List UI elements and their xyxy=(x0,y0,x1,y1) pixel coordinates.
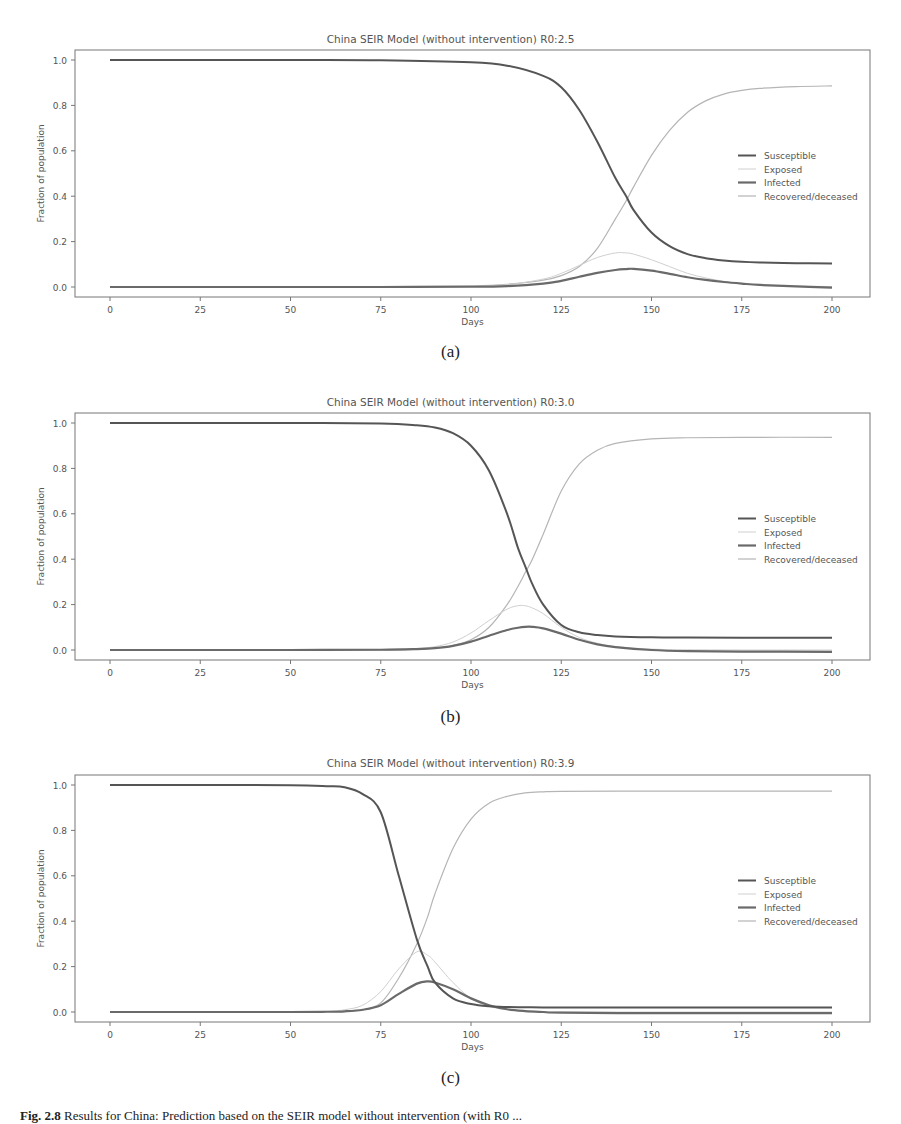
chart-panel-a: China SEIR Model (without intervention) … xyxy=(0,0,901,370)
x-tick-label: 175 xyxy=(733,1030,750,1040)
plot-area: 0.00.20.40.60.81.00255075100125150175200… xyxy=(0,0,901,330)
legend-entry: Infected xyxy=(764,541,801,551)
y-tick-label: 0.8 xyxy=(53,464,68,474)
x-tick-label: 0 xyxy=(107,668,113,678)
legend-entry: Recovered/deceased xyxy=(764,192,858,202)
figure-caption: Fig. 2.8 Results for China: Prediction b… xyxy=(20,1108,522,1124)
plot-area: 0.00.20.40.60.81.00255075100125150175200… xyxy=(0,725,901,1055)
series-line-recovered-deceased xyxy=(110,86,832,287)
y-tick-label: 0.2 xyxy=(53,962,67,972)
y-axis-label: Fraction of population xyxy=(36,849,46,947)
axes-frame xyxy=(75,50,870,297)
x-tick-label: 0 xyxy=(107,1030,113,1040)
axes-frame xyxy=(75,413,870,660)
x-tick-label: 100 xyxy=(462,1030,479,1040)
series-line-recovered-deceased xyxy=(110,791,832,1012)
panel-label: (b) xyxy=(0,707,901,727)
x-tick-label: 25 xyxy=(195,305,206,315)
panel-label: (a) xyxy=(0,342,901,362)
legend-entry: Susceptible xyxy=(764,876,817,886)
legend-entry: Susceptible xyxy=(764,514,817,524)
x-tick-label: 150 xyxy=(643,305,660,315)
y-tick-label: 0.2 xyxy=(53,600,67,610)
plot-area: 0.00.20.40.60.81.00255075100125150175200… xyxy=(0,363,901,693)
legend-entry: Infected xyxy=(764,903,801,913)
x-tick-label: 25 xyxy=(195,1030,206,1040)
legend-entry: Exposed xyxy=(764,528,802,538)
y-tick-label: 0.6 xyxy=(53,509,68,519)
x-tick-label: 150 xyxy=(643,668,660,678)
y-tick-label: 0.4 xyxy=(53,917,68,927)
y-tick-label: 1.0 xyxy=(53,781,68,791)
x-tick-label: 150 xyxy=(643,1030,660,1040)
x-tick-label: 25 xyxy=(195,668,206,678)
y-tick-label: 0.6 xyxy=(53,146,68,156)
y-tick-label: 0.4 xyxy=(53,192,68,202)
x-tick-label: 50 xyxy=(285,668,297,678)
y-tick-label: 0.6 xyxy=(53,871,68,881)
series-line-exposed xyxy=(110,605,832,650)
legend: SusceptibleExposedInfectedRecovered/dece… xyxy=(738,151,858,202)
x-tick-label: 75 xyxy=(375,668,386,678)
series-line-susceptible xyxy=(110,423,832,638)
y-tick-label: 0.0 xyxy=(53,283,68,293)
x-tick-label: 200 xyxy=(823,668,840,678)
y-axis-label: Fraction of population xyxy=(36,124,46,222)
x-tick-label: 200 xyxy=(823,305,840,315)
legend-entry: Exposed xyxy=(764,165,802,175)
series-line-recovered-deceased xyxy=(110,437,832,650)
x-tick-label: 125 xyxy=(553,668,570,678)
x-tick-label: 75 xyxy=(375,1030,386,1040)
legend-entry: Infected xyxy=(764,178,801,188)
x-tick-label: 100 xyxy=(462,668,479,678)
y-tick-label: 0.0 xyxy=(53,646,68,656)
x-tick-label: 175 xyxy=(733,305,750,315)
chart-panel-c: China SEIR Model (without intervention) … xyxy=(0,725,901,1095)
y-tick-label: 0.4 xyxy=(53,555,68,565)
y-tick-label: 0.8 xyxy=(53,101,68,111)
x-tick-label: 0 xyxy=(107,305,113,315)
x-tick-label: 125 xyxy=(553,1030,570,1040)
caption-label: Fig. 2.8 xyxy=(20,1108,61,1123)
legend: SusceptibleExposedInfectedRecovered/dece… xyxy=(738,514,858,565)
legend-entry: Susceptible xyxy=(764,151,817,161)
series-line-susceptible xyxy=(110,60,832,263)
y-tick-label: 1.0 xyxy=(53,419,68,429)
x-tick-label: 50 xyxy=(285,1030,297,1040)
legend-entry: Exposed xyxy=(764,890,802,900)
x-axis-label: Days xyxy=(461,1042,484,1052)
legend-entry: Recovered/deceased xyxy=(764,917,858,927)
y-axis-label: Fraction of population xyxy=(36,487,46,585)
caption-text: Results for China: Prediction based on t… xyxy=(64,1108,522,1123)
x-axis-label: Days xyxy=(461,317,484,327)
legend: SusceptibleExposedInfectedRecovered/dece… xyxy=(738,876,858,927)
y-tick-label: 0.8 xyxy=(53,826,68,836)
y-tick-label: 1.0 xyxy=(53,56,68,66)
chart-panel-b: China SEIR Model (without intervention) … xyxy=(0,363,901,733)
series-line-exposed xyxy=(110,951,832,1012)
panel-label: (c) xyxy=(0,1068,901,1088)
x-axis-label: Days xyxy=(461,680,484,690)
x-tick-label: 50 xyxy=(285,305,297,315)
legend-entry: Recovered/deceased xyxy=(764,555,858,565)
x-tick-label: 200 xyxy=(823,1030,840,1040)
axes-frame xyxy=(75,775,870,1022)
x-tick-label: 100 xyxy=(462,305,479,315)
x-tick-label: 175 xyxy=(733,668,750,678)
series-line-infected xyxy=(110,269,832,288)
x-tick-label: 75 xyxy=(375,305,386,315)
x-tick-label: 125 xyxy=(553,305,570,315)
y-tick-label: 0.0 xyxy=(53,1008,68,1018)
y-tick-label: 0.2 xyxy=(53,237,67,247)
